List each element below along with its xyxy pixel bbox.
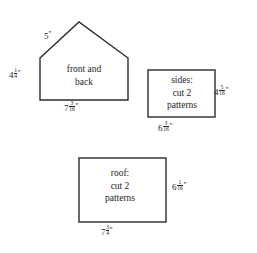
sides-bottom-dimension: 6316" xyxy=(158,121,173,135)
front-and-back-left-dimension: 414" xyxy=(9,68,21,82)
front-and-back-left-unit: " xyxy=(18,69,21,78)
roof-right-denominator: 16 xyxy=(177,186,184,191)
front-and-back-left-denominator: 4 xyxy=(14,74,18,79)
sides-right-dimension: 4516" xyxy=(214,85,229,99)
front-and-back-inner-line-2: back xyxy=(75,77,93,87)
roof-bottom-unit: " xyxy=(110,226,113,235)
front-and-back-left-fraction: 14 xyxy=(14,68,18,80)
shape-outlines xyxy=(0,0,257,253)
sides-bottom-unit: " xyxy=(169,122,172,131)
front-and-back-bottom-denominator: 16 xyxy=(69,107,76,112)
sides-right-unit: " xyxy=(225,86,228,95)
front-and-back-bottom-unit: " xyxy=(75,102,78,111)
front-and-back-shape xyxy=(40,22,128,100)
sides-inner-line-2: cut 2 xyxy=(173,88,192,98)
roof-bottom-denominator: 4 xyxy=(106,231,110,236)
front-and-back-inner-label: front and back xyxy=(40,63,128,88)
roof-right-unit: " xyxy=(183,181,186,190)
front-and-back-roof-slope-unit: " xyxy=(49,30,52,39)
roof-right-fraction: 116 xyxy=(177,180,184,192)
roof-inner-label: roof: cut 2 patterns xyxy=(78,167,162,205)
sides-inner-label: sides: cut 2 patterns xyxy=(150,74,214,112)
roof-inner-line-1: roof: xyxy=(111,168,129,178)
sides-inner-line-1: sides: xyxy=(171,75,193,85)
roof-inner-line-2: cut 2 xyxy=(111,181,130,191)
front-and-back-bottom-fraction: 316 xyxy=(69,101,76,113)
roof-right-dimension: 6116" xyxy=(172,180,187,194)
sides-right-denominator: 16 xyxy=(219,91,226,96)
pattern-diagram: front and back 5" 414" 7316" sides: cut … xyxy=(0,0,257,253)
roof-bottom-fraction: 34 xyxy=(106,225,110,237)
sides-inner-line-3: patterns xyxy=(167,100,197,110)
roof-inner-line-3: patterns xyxy=(105,193,135,203)
sides-right-fraction: 516 xyxy=(219,85,226,97)
front-and-back-roof-slope-dimension: 5" xyxy=(44,30,52,43)
front-and-back-bottom-dimension: 7316" xyxy=(64,101,79,115)
roof-bottom-dimension: 734" xyxy=(101,225,113,239)
front-and-back-inner-line-1: front and xyxy=(67,64,102,74)
sides-bottom-denominator: 16 xyxy=(163,127,170,132)
sides-bottom-fraction: 316 xyxy=(163,121,170,133)
